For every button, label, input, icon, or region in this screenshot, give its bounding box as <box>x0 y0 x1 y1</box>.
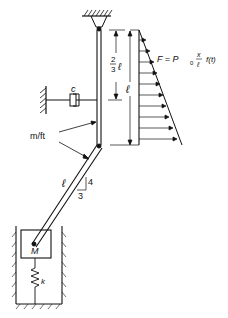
damper-label: c <box>71 84 76 94</box>
spring <box>31 258 39 304</box>
slope-rise-label: 4 <box>88 177 93 187</box>
slope-run-label: 3 <box>78 191 83 201</box>
fraction-denominator: 3 <box>111 65 116 74</box>
fraction-numerator: 2 <box>111 55 116 64</box>
inclined-bar <box>32 145 102 247</box>
mass-per-length-leaders <box>59 121 96 159</box>
distributed-load <box>139 30 182 145</box>
mass-label: M <box>31 246 39 256</box>
structural-dynamics-diagram: c m/ft 2 3 ℓ ℓ ℓ 4 3 M k F = P 0 x ℓ f(t… <box>0 0 228 318</box>
mass-container <box>12 226 66 309</box>
upper-length-symbol: ℓ <box>117 61 122 72</box>
ceiling-support <box>82 10 112 31</box>
mass-per-length-label: m/ft <box>30 131 45 141</box>
damper <box>46 94 97 106</box>
left-wall <box>40 86 46 114</box>
force-fraction-num: x <box>196 51 201 58</box>
vertical-bar <box>97 30 101 148</box>
total-length-label: ℓ <box>125 83 130 95</box>
force-lhs: F = P <box>157 54 179 64</box>
dimension-full-length <box>110 30 139 145</box>
lower-length-label: ℓ <box>61 177 66 189</box>
spring-label: k <box>41 277 46 286</box>
force-subscript: 0 <box>190 60 194 66</box>
force-fraction-den: ℓ <box>196 61 200 68</box>
force-rhs: f(t) <box>206 55 216 64</box>
force-equation: F = P 0 x ℓ f(t) <box>157 51 216 68</box>
